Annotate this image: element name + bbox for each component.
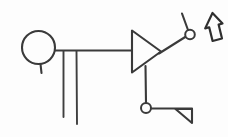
- cursor-arrow-glyph: [205, 13, 222, 41]
- output-diagonal-wire: [159, 37, 186, 54]
- schematic-drawing: [0, 0, 228, 137]
- circle-bottom-stub: [41, 64, 42, 73]
- vertical-feedback-wire: [146, 66, 147, 103]
- schematic-canvas: [0, 0, 228, 137]
- vertical-leg-right: [77, 51, 78, 124]
- output-node-circle: [185, 30, 195, 40]
- terminator-triangle: [176, 109, 193, 123]
- bottom-node-circle: [141, 103, 151, 113]
- output-node-upper-stub: [182, 14, 188, 31]
- circle-source-symbol: [22, 31, 55, 64]
